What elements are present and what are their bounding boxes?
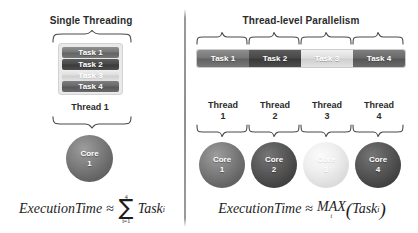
right-panel-title: Thread-level Parallelism: [186, 15, 416, 26]
task-chip-3[interactable]: Task 3: [62, 70, 119, 81]
sigma-glyph: ∑: [119, 199, 134, 217]
task-chip-1[interactable]: Task 1: [62, 47, 119, 58]
thread-number: 1: [197, 111, 249, 122]
task-chip-2[interactable]: Task 2: [62, 59, 119, 70]
left-formula-approx: ≈: [102, 201, 118, 217]
right-formula-term: Task: [352, 201, 377, 217]
right-formula-lhs: ExecutionTime: [218, 201, 301, 217]
right-formula: ExecutionTime ≈ MAX i ( Task i ): [194, 194, 410, 224]
max-label: MAX: [317, 200, 346, 214]
left-formula-lhs: ExecutionTime: [19, 201, 102, 217]
core-number: 1: [87, 159, 91, 169]
core-label: Core: [317, 155, 335, 165]
sigma-lower-limit: i=1: [122, 218, 130, 224]
thread-label-3: Thread 3: [301, 100, 353, 126]
thread-cores-brace: [196, 124, 406, 138]
core-number: 2: [272, 165, 276, 175]
core-label: Core: [80, 149, 98, 159]
taskbar-segment-1[interactable]: Task 1: [197, 50, 249, 67]
max-operator: MAX i: [317, 200, 346, 219]
core-label: Core: [265, 155, 283, 165]
taskbar-segment-2[interactable]: Task 2: [249, 50, 301, 67]
thread-label-4: Thread 4: [353, 100, 405, 126]
left-formula-term: Task: [135, 201, 163, 217]
core-circle-1[interactable]: Core 1: [66, 135, 113, 182]
thread-name: Thread: [353, 100, 405, 111]
diagram-canvas: Single Threading Task 1 Task 2 Task 3 Ta…: [0, 0, 418, 233]
left-panel-title: Single Threading: [0, 15, 182, 26]
task-chip-4[interactable]: Task 4: [62, 81, 119, 92]
left-panel: Single Threading Task 1 Task 2 Task 3 Ta…: [0, 0, 184, 233]
thread-label-2: Thread 2: [249, 100, 301, 126]
core-circle-1[interactable]: Core 1: [199, 142, 245, 188]
thread-number: 4: [353, 111, 405, 122]
core-number: 4: [376, 165, 380, 175]
thread-name: Thread: [197, 100, 249, 111]
task-segments-brace: [196, 31, 406, 45]
thread-number: 2: [249, 111, 301, 122]
thread-number: 3: [301, 111, 353, 122]
core-label: Core: [369, 155, 387, 165]
core-number: 3: [324, 165, 328, 175]
left-thread-label: Thread 1: [40, 102, 140, 113]
task-stack: Task 1 Task 2 Task 3 Task 4: [59, 44, 122, 94]
thread-labels-row: Thread 1 Thread 2 Thread 3 Thread 4: [197, 100, 405, 126]
thread-name: Thread: [249, 100, 301, 111]
left-formula: ExecutionTime ≈ 4 ∑ i=1 Task i: [8, 190, 176, 228]
core-circle-3[interactable]: Core 3: [303, 142, 349, 188]
core-number: 1: [220, 165, 224, 175]
core-label: Core: [213, 155, 231, 165]
right-formula-approx: ≈: [301, 201, 317, 217]
parallel-task-bar: Task 1 Task 2 Task 3 Task 4: [197, 50, 405, 67]
right-panel: Thread-level Parallelism Task 1 Task 2 T…: [186, 0, 418, 233]
max-subscript: i: [331, 213, 333, 219]
single-threading-brace: [51, 30, 133, 43]
thread-1-brace: [51, 116, 133, 129]
summation-symbol: 4 ∑ i=1: [118, 194, 135, 223]
core-circle-4[interactable]: Core 4: [355, 142, 401, 188]
taskbar-segment-4[interactable]: Task 4: [353, 50, 405, 67]
thread-label-1: Thread 1: [197, 100, 249, 126]
taskbar-segment-3[interactable]: Task 3: [301, 50, 353, 67]
close-paren: ): [380, 200, 386, 219]
left-formula-term-subscript: i: [163, 205, 165, 214]
thread-name: Thread: [301, 100, 353, 111]
core-circle-2[interactable]: Core 2: [251, 142, 297, 188]
